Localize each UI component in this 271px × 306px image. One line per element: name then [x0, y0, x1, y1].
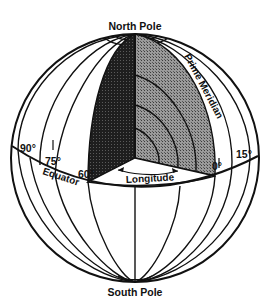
equator-label: Equator [41, 165, 80, 187]
degree-90-label: 90° [20, 142, 36, 154]
degree-75-label: 75° [45, 155, 61, 167]
north-pole-label: North Pole [108, 20, 161, 32]
meridian-line [55, 175, 135, 282]
south-pole-label: South Pole [108, 286, 163, 298]
dark-wedge [88, 34, 135, 182]
degree-0-label: 0° [212, 160, 222, 172]
meridian-line [88, 182, 135, 282]
globe-diagram: North Pole South Pole Prime Meridian Equ… [0, 0, 271, 306]
degree-60-label: 60° [78, 168, 94, 180]
degree-15-label: 15° [236, 148, 252, 160]
